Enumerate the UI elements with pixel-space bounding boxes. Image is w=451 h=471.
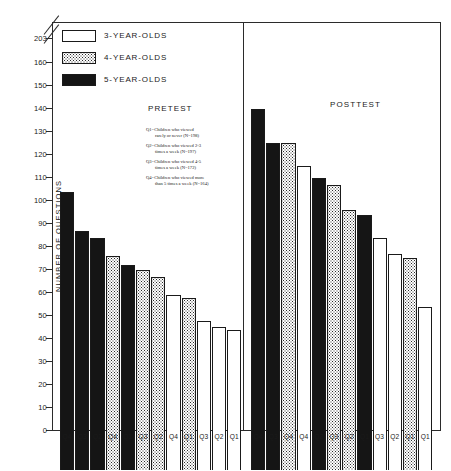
x-tick-label: Q1 (227, 433, 241, 440)
bar-slot (197, 61, 211, 470)
bar-slot (182, 61, 196, 470)
x-tick-label: Q1 (357, 433, 371, 440)
bar-slot (357, 61, 371, 470)
bar (212, 327, 226, 470)
bar-slot (90, 61, 104, 470)
bar (227, 330, 241, 470)
y-tick-label: 150 (34, 81, 47, 90)
y-tick-label: 50 (38, 311, 47, 320)
bar-slot (388, 61, 402, 470)
x-tick-label: Q4 (251, 433, 265, 440)
bar-slot (60, 61, 74, 470)
y-tick-label: 140 (34, 104, 47, 113)
y-tick-label: 30 (38, 357, 47, 366)
x-tick-label: Q4 (281, 433, 295, 440)
x-tick-label: Q4 (60, 433, 74, 440)
pretest-x-labels: Q4Q3Q2Q4Q1Q3Q2Q4Q1Q3Q2Q1 (60, 433, 242, 440)
bar-slot (166, 61, 180, 470)
legend-item-white: 3-YEAR-OLDS (62, 28, 167, 43)
x-tick-label: Q3 (266, 433, 280, 440)
x-tick-label: Q1 (182, 433, 196, 440)
x-tick-label: Q3 (197, 433, 211, 440)
bar (342, 210, 356, 470)
bar (327, 185, 341, 470)
bar-slot (297, 61, 311, 470)
x-tick-label: Q2 (342, 433, 356, 440)
chart-root: 0102030405060708090100110120130140150160… (0, 0, 451, 471)
y-tick-label: 120 (34, 150, 47, 159)
bar-slot (327, 61, 341, 470)
bar-slot (418, 61, 432, 470)
x-tick-label: Q1 (403, 433, 417, 440)
panel-divider (243, 23, 244, 430)
y-tick-label: 70 (38, 265, 47, 274)
y-tick-label: 90 (38, 219, 47, 228)
bar-slot (212, 61, 226, 470)
y-tick-label: 10 (38, 403, 47, 412)
bar-slot (281, 61, 295, 470)
bar-slot (342, 61, 356, 470)
x-tick-label: Q4 (297, 433, 311, 440)
posttest-bars (251, 61, 433, 470)
x-tick-label: Q2 (90, 433, 104, 440)
bar (251, 109, 265, 470)
bar (266, 143, 280, 470)
y-tick-label: 60 (38, 288, 47, 297)
bar-slot (312, 61, 326, 470)
y-tick-label: 130 (34, 127, 47, 136)
bar-slot (227, 61, 241, 470)
bar-slot (106, 61, 120, 470)
y-tick-label: 40 (38, 334, 47, 343)
bar (297, 166, 311, 470)
bar (182, 298, 196, 471)
bar-slot (75, 61, 89, 470)
bar-slot (151, 61, 165, 470)
pretest-bars (60, 61, 242, 470)
bar-slot (403, 61, 417, 470)
y-tick-label: 100 (34, 196, 47, 205)
y-tick-label: 20 (38, 380, 47, 389)
x-tick-label: Q3 (75, 433, 89, 440)
x-tick-label: Q2 (312, 433, 326, 440)
bar (166, 295, 180, 470)
x-tick-label: Q4 (166, 433, 180, 440)
bar-slot (121, 61, 135, 470)
y-tick-label: 0 (43, 426, 47, 435)
bar-slot (136, 61, 150, 470)
x-tick-label: Q2 (151, 433, 165, 440)
bar-slot (266, 61, 280, 470)
y-tick-label: 80 (38, 242, 47, 251)
bar (418, 307, 432, 470)
posttest-x-labels: Q4Q3Q4Q4Q2Q3Q2Q1Q3Q2Q1Q1 (251, 433, 433, 440)
bar-slot (373, 61, 387, 470)
x-tick-label: Q1 (121, 433, 135, 440)
bar (197, 321, 211, 471)
x-tick-label: Q4 (106, 433, 120, 440)
x-tick-label: Q3 (327, 433, 341, 440)
y-tick-label: 160 (34, 58, 47, 67)
bar-slot (251, 61, 265, 470)
bar (151, 277, 165, 470)
x-tick-label: Q2 (212, 433, 226, 440)
bar (357, 215, 371, 470)
bar (312, 178, 326, 470)
x-tick-label: Q3 (136, 433, 150, 440)
legend-label: 3-YEAR-OLDS (104, 31, 167, 40)
bar (281, 143, 295, 470)
y-tick-label: 110 (34, 173, 47, 182)
legend-swatch-icon (62, 30, 96, 42)
x-tick-label: Q3 (373, 433, 387, 440)
x-tick-label: Q1 (418, 433, 432, 440)
x-tick-label: Q2 (388, 433, 402, 440)
bar (60, 192, 74, 470)
